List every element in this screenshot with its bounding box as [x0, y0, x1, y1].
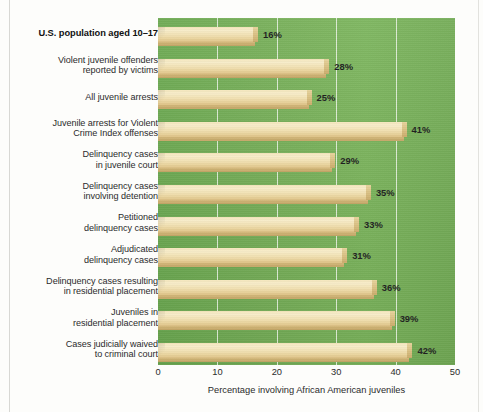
page-margin-rule-right: [478, 0, 479, 412]
bar-end-cap: [372, 280, 377, 295]
bar: [158, 27, 253, 42]
bar-row: [158, 311, 396, 330]
category-label-line: Petitioned: [12, 212, 158, 223]
bar-base-shadow: [158, 263, 344, 267]
x-tick-label-30: 30: [331, 367, 341, 377]
bar-value-label: 41%: [412, 124, 431, 135]
bar: [158, 185, 366, 200]
bar-start-notch: [158, 343, 165, 362]
bar-base-shadow: [158, 74, 326, 78]
bar-start-notch: [158, 311, 165, 330]
bar-base-shadow: [158, 295, 374, 299]
category-label-line: delinquency cases: [12, 223, 158, 234]
bar-start-notch: [158, 280, 165, 299]
category-label: Juvenile arrests for ViolentCrime Index …: [12, 118, 158, 139]
bar-base-shadow: [158, 137, 404, 141]
bar-value-label: 39%: [400, 313, 419, 324]
bar-end-cap: [390, 311, 395, 326]
bar: [158, 248, 342, 263]
bar-value-label: 42%: [417, 345, 436, 356]
bar-end-cap: [354, 217, 359, 232]
bar-value-label: 33%: [364, 219, 383, 230]
bar-base-shadow: [158, 42, 255, 46]
x-tick-label-0: 0: [155, 367, 160, 377]
bar-end-cap: [402, 122, 407, 137]
plot-area: 16%28%25%41%29%35%33%31%36%39%42%: [158, 18, 455, 365]
bar: [158, 59, 324, 74]
category-label-line: involving detention: [12, 191, 158, 202]
category-label-line: Juveniles in: [12, 307, 158, 318]
bar-base-shadow: [158, 168, 332, 172]
bar: [158, 217, 354, 232]
bar-row: [158, 280, 378, 299]
chart-figure: U.S. population aged 10–17Violent juveni…: [0, 0, 483, 412]
bar-row: [158, 59, 330, 78]
bar-value-label: 35%: [376, 187, 395, 198]
bar-start-notch: [158, 248, 165, 267]
gridline-40: [396, 18, 397, 365]
x-axis-ticks: 01020304050: [158, 365, 455, 381]
category-label: Cases judicially waivedto criminal court: [12, 339, 158, 360]
bar-end-cap: [253, 27, 258, 42]
bar-start-notch: [158, 27, 165, 46]
bar-value-label: 31%: [352, 250, 371, 261]
bar-base-shadow: [158, 326, 392, 330]
category-label-line: Delinquency cases: [12, 181, 158, 192]
category-label-line: Cases judicially waived: [12, 339, 158, 350]
category-label-line: delinquency cases: [12, 255, 158, 266]
x-tick-label-40: 40: [390, 367, 400, 377]
category-label-line: Violent juvenile offenders: [12, 55, 158, 66]
category-label-line: Crime Index offenses: [12, 128, 158, 139]
page-margin-rule-left: [9, 0, 10, 412]
bar-value-label: 16%: [263, 29, 282, 40]
category-label: All juvenile arrests: [12, 92, 158, 103]
category-label: Delinquency casesin juvenile court: [12, 149, 158, 170]
bar-end-cap: [366, 185, 371, 200]
x-axis-title: Percentage involving African American ju…: [158, 385, 455, 395]
bar-value-label: 28%: [334, 61, 353, 72]
category-label: Delinquency cases resultingin residentia…: [12, 276, 158, 297]
bar: [158, 311, 390, 326]
category-label-line: Delinquency cases: [12, 149, 158, 160]
x-tick-label-20: 20: [272, 367, 282, 377]
x-tick-label-10: 10: [212, 367, 222, 377]
category-label-line: U.S. population aged 10–17: [12, 28, 158, 39]
bar-row: [158, 248, 348, 267]
bar-start-notch: [158, 59, 165, 78]
bar: [158, 90, 307, 105]
bar: [158, 122, 402, 137]
category-label-line: All juvenile arrests: [12, 92, 158, 103]
bar-base-shadow: [158, 232, 356, 236]
bar-start-notch: [158, 153, 165, 172]
bar-row: [158, 153, 336, 172]
bar-value-label: 25%: [317, 92, 336, 103]
x-tick-label-50: 50: [450, 367, 460, 377]
category-label: Juveniles inresidential placement: [12, 307, 158, 328]
bar-start-notch: [158, 90, 165, 109]
bar-row: [158, 90, 313, 109]
category-label-line: Juvenile arrests for Violent: [12, 118, 158, 129]
bar-row: [158, 185, 372, 204]
bar-end-cap: [307, 90, 312, 105]
bar: [158, 343, 407, 358]
bar-value-label: 36%: [382, 282, 401, 293]
category-label-line: reported by victims: [12, 65, 158, 76]
bar-base-shadow: [158, 358, 409, 362]
bar-row: [158, 27, 259, 46]
category-label-column: U.S. population aged 10–17Violent juveni…: [12, 18, 158, 365]
bar: [158, 280, 372, 295]
category-label-line: Adjudicated: [12, 244, 158, 255]
bar-row: [158, 122, 408, 141]
bar-end-cap: [330, 153, 335, 168]
bar-end-cap: [407, 343, 412, 358]
category-label-line: in residential placement: [12, 286, 158, 297]
bar-base-shadow: [158, 105, 309, 109]
bar-row: [158, 343, 413, 362]
bar-base-shadow: [158, 200, 368, 204]
category-label-line: to criminal court: [12, 349, 158, 360]
bar-row: [158, 217, 360, 236]
bar-value-label: 29%: [340, 155, 359, 166]
category-label: U.S. population aged 10–17: [12, 28, 158, 39]
category-label-line: residential placement: [12, 318, 158, 329]
category-label: Delinquency casesinvolving detention: [12, 181, 158, 202]
